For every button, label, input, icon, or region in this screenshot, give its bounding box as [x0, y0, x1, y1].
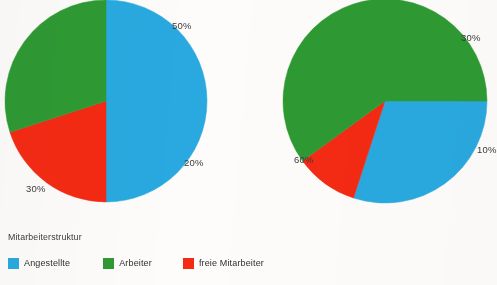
legend-item-angestellte: Angestellte	[8, 256, 70, 270]
pie-right-label-freie-mitarbeiter: 10%	[477, 144, 497, 155]
legend-item-freie-mitarbeiter: freie Mitarbeiter	[183, 256, 264, 270]
legend-label-angestellte: Angestellte	[24, 258, 70, 268]
pie-left-label-arbeiter: 30%	[26, 183, 46, 194]
legend-items-row: Angestellte Arbeiter freie Mitarbeiter	[8, 256, 264, 270]
pie-right-label-angestellte: 30%	[461, 32, 481, 43]
legend-item-arbeiter: Arbeiter	[103, 256, 152, 270]
pie-charts-svg	[0, 0, 497, 215]
legend-swatch-arbeiter-icon	[103, 258, 114, 269]
pie-left-label-angestellte: 50%	[172, 20, 192, 31]
legend-swatch-freie-mitarbeiter-icon	[183, 258, 194, 269]
pie-right-label-arbeiter: 60%	[294, 154, 314, 165]
legend-label-freie-mitarbeiter: freie Mitarbeiter	[199, 258, 264, 268]
pie-left-label-freie-mitarbeiter: 20%	[184, 157, 204, 168]
legend-title: Mitarbeiterstruktur	[8, 232, 82, 242]
pie-right	[283, 0, 487, 203]
legend-swatch-angestellte-icon	[8, 258, 19, 269]
legend-label-arbeiter: Arbeiter	[119, 258, 152, 268]
pie-charts-area: 50% 20% 30% 30% 10% 60%	[0, 0, 497, 215]
legend: Mitarbeiterstruktur Angestellte Arbeiter…	[0, 215, 497, 285]
